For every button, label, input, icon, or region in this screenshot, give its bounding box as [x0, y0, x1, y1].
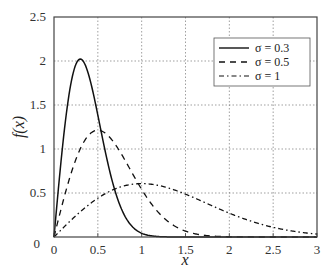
y-tick-label: 2 [40, 53, 47, 68]
y-tick-label: 2.5 [30, 9, 46, 24]
y-axis-label: f(x) [10, 116, 28, 138]
y-tick-label: 0.5 [30, 185, 46, 200]
x-tick-label: 2.5 [265, 242, 281, 257]
x-tick-label: 2 [226, 242, 233, 257]
rayleigh-pdf-chart: 00.511.522.53 00.511.522.5 x f(x) σ = 0.… [0, 0, 335, 272]
legend-label-sigma-1: σ = 1 [255, 69, 280, 83]
y-tick-label: 0 [34, 236, 41, 251]
x-tick-label: 0 [51, 242, 58, 257]
legend-label-sigma-0.3: σ = 0.3 [255, 41, 289, 55]
x-axis-label: x [180, 251, 188, 268]
y-tick-labels: 00.511.522.5 [30, 9, 46, 251]
y-tick-label: 1 [40, 141, 47, 156]
x-tick-label: 3 [314, 242, 321, 257]
x-tick-label: 1 [138, 242, 145, 257]
legend: σ = 0.3 σ = 0.5 σ = 1 [214, 38, 310, 86]
y-tick-label: 1.5 [30, 97, 46, 112]
x-tick-label: 0.5 [90, 242, 106, 257]
legend-label-sigma-0.5: σ = 0.5 [255, 55, 289, 69]
